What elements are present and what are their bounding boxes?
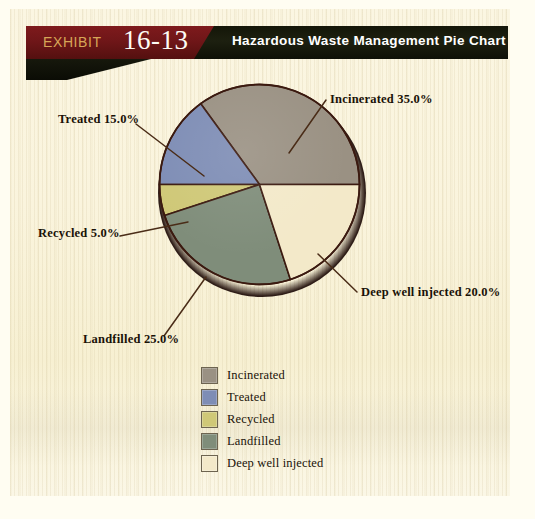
legend-swatch-treated: [201, 389, 218, 406]
pie-outline: [160, 85, 360, 285]
legend-item-incinerated: Incinerated: [201, 364, 323, 386]
exhibit-number: 16-13: [123, 25, 189, 56]
pie-chart: [155, 80, 380, 330]
legend-item-deep-well-injected: Deep well injected: [201, 452, 323, 474]
exhibit-label: EXHIBIT: [43, 34, 102, 50]
pie-label-incinerated: Incinerated 35.0%: [330, 92, 433, 107]
legend-label-treated: Treated: [227, 390, 266, 405]
exhibit-title: Hazardous Waste Management Pie Chart: [232, 33, 506, 48]
legend-label-recycled: Recycled: [227, 412, 275, 427]
legend-swatch-landfilled: [201, 433, 218, 450]
pie-label-deep-well-injected: Deep well injected 20.0%: [361, 285, 501, 300]
pie-slices: [155, 80, 364, 289]
exhibit-page: EXHIBIT 16-13 Hazardous Waste Management…: [0, 0, 535, 519]
pie-label-landfilled: Landfilled 25.0%: [83, 332, 179, 347]
pie-label-treated: Treated 15.0%: [58, 112, 139, 127]
legend-label-deep-well-injected: Deep well injected: [227, 456, 323, 471]
legend-swatch-incinerated: [201, 367, 218, 384]
legend-swatch-recycled: [201, 411, 218, 428]
legend-label-incinerated: Incinerated: [227, 368, 285, 383]
chart-legend: Incinerated Treated Recycled Landfilled …: [201, 364, 323, 474]
legend-item-landfilled: Landfilled: [201, 430, 323, 452]
legend-item-treated: Treated: [201, 386, 323, 408]
legend-label-landfilled: Landfilled: [227, 434, 281, 449]
legend-item-recycled: Recycled: [201, 408, 323, 430]
exhibit-header-banner: EXHIBIT 16-13 Hazardous Waste Management…: [26, 26, 508, 59]
pie-label-recycled: Recycled 5.0%: [38, 226, 120, 241]
legend-swatch-deep-well-injected: [201, 455, 218, 472]
